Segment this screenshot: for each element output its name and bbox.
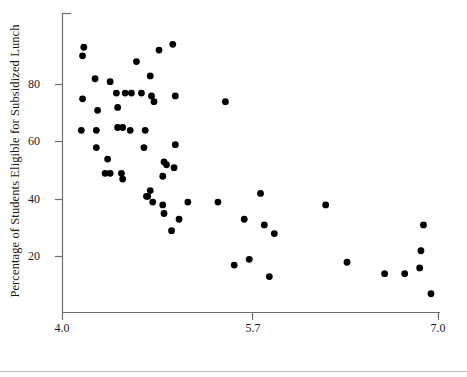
data-point (428, 290, 435, 297)
data-point (104, 156, 111, 163)
plot-canvas (0, 0, 467, 377)
data-point (176, 216, 183, 223)
data-point (222, 98, 229, 105)
data-point (80, 44, 87, 51)
data-point (169, 41, 176, 48)
data-point (163, 161, 170, 168)
data-point (122, 90, 129, 97)
footer-divider (0, 371, 467, 372)
data-point (401, 270, 408, 277)
data-point (78, 127, 85, 134)
data-point (246, 256, 253, 263)
data-point (161, 210, 168, 217)
data-points-layer (78, 41, 434, 297)
data-point (144, 193, 151, 200)
data-point (128, 90, 135, 97)
data-point (418, 247, 425, 254)
data-point (171, 164, 178, 171)
data-point (142, 127, 149, 134)
data-point (257, 190, 264, 197)
data-point (172, 93, 179, 100)
data-point (266, 273, 273, 280)
data-point (138, 90, 145, 97)
data-point (149, 199, 156, 206)
data-point (107, 78, 114, 85)
data-point (114, 104, 121, 111)
data-point (107, 170, 114, 177)
data-point (381, 270, 388, 277)
data-point (119, 124, 126, 131)
data-point (172, 141, 179, 148)
data-point (93, 127, 100, 134)
data-point (184, 199, 191, 206)
data-point (151, 98, 158, 105)
data-point (215, 199, 222, 206)
data-point (322, 202, 329, 209)
data-point (261, 222, 268, 229)
data-point (168, 227, 175, 234)
data-point (79, 52, 86, 59)
data-point (241, 216, 248, 223)
data-point (118, 170, 125, 177)
data-point (147, 73, 154, 80)
data-point (119, 176, 126, 183)
data-point (79, 95, 86, 102)
data-point (156, 47, 163, 54)
data-point (141, 144, 148, 151)
scatter-plot-figure: Percentage of Students Eligible for Subs… (0, 0, 467, 377)
data-point (93, 144, 100, 151)
data-point (159, 202, 166, 209)
data-point (127, 127, 134, 134)
data-point (271, 230, 278, 237)
data-point (92, 75, 99, 82)
data-point (113, 90, 120, 97)
data-point (133, 58, 140, 65)
x-axis-ticks (63, 313, 439, 320)
axis-lines (62, 13, 440, 313)
data-point (416, 265, 423, 272)
data-point (344, 259, 351, 266)
data-point (231, 262, 238, 269)
data-point (420, 222, 427, 229)
data-point (159, 173, 166, 180)
y-axis-ticks (55, 85, 62, 257)
data-point (94, 107, 101, 114)
